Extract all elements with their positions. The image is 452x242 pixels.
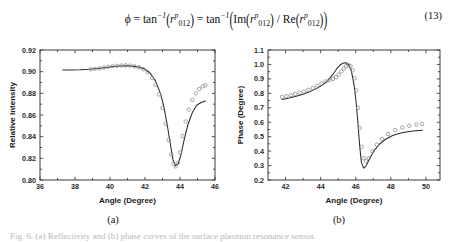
a-ytick-label: 0.80: [22, 176, 36, 185]
im-label: Im: [233, 13, 246, 25]
b-series-experiment-marker: [337, 73, 341, 77]
a-series-experiment-marker: [187, 108, 191, 112]
close-paren-im: ): [270, 4, 274, 33]
open-paren-outer: (: [229, 0, 233, 37]
b-ytick-label: 0.5: [254, 132, 264, 141]
a-xtick-label: 44: [176, 182, 184, 191]
b-ytick-label: 0.4: [254, 147, 264, 156]
a-ytick-label: 0.86: [22, 111, 36, 120]
tan-exponent-1: −1: [157, 11, 166, 20]
a-series-experiment-marker: [191, 98, 195, 102]
b-series-experiment-marker: [393, 128, 397, 132]
b-series-experiment-marker: [364, 159, 368, 163]
r-subscript-1: 012: [178, 19, 190, 28]
b-ytick-label: 0.8: [254, 89, 264, 98]
a-xtick-label: 38: [71, 182, 79, 191]
chart-b-data: [280, 63, 424, 168]
b-series-experiment-marker: [320, 82, 324, 86]
b-ytick-label: 1.0: [254, 60, 264, 69]
a-series-experiment-marker: [194, 92, 198, 96]
a-series-theory-line: [63, 66, 206, 166]
b-series-experiment-marker: [380, 137, 384, 141]
chart-a-x-axis-title: Angle (Degree): [99, 196, 156, 205]
b-ytick-label: 0.3: [254, 161, 264, 170]
b-series-experiment-marker: [298, 91, 302, 95]
a-series-experiment-marker: [184, 120, 188, 124]
a-series-experiment-marker: [198, 87, 202, 91]
tan-label-2: tan: [206, 13, 220, 25]
b-series-experiment-marker: [360, 145, 364, 149]
open-paren-re: (: [296, 4, 300, 33]
b-ytick-label: 0.9: [254, 74, 264, 83]
a-xtick-label: 40: [106, 182, 114, 191]
b-series-experiment-marker: [386, 132, 390, 136]
close-paren-1: ): [190, 4, 194, 33]
b-series-experiment-marker: [375, 143, 379, 147]
b-series-theory-line: [282, 63, 422, 168]
chart-b-y-axis-title: Phase (Degree): [236, 86, 245, 145]
b-ytick-label: 0.7: [254, 103, 264, 112]
b-xtick-label: 44: [317, 182, 325, 191]
chart-b-svg: 42444648500.20.30.40.50.60.70.80.91.01.1…: [226, 38, 452, 216]
b-series-experiment-marker: [420, 122, 424, 126]
b-ytick-label: 1.1: [254, 46, 264, 55]
b-ytick-label: 0.2: [254, 176, 264, 185]
chart-b-tick-labels: 42444648500.20.30.40.50.60.70.80.91.01.1: [254, 46, 430, 191]
b-xtick-label: 48: [387, 182, 395, 191]
subcaption-b: (b): [226, 214, 452, 225]
b-xtick-label: 42: [282, 182, 290, 191]
b-series-experiment-marker: [280, 95, 284, 99]
open-paren-1: (: [166, 4, 170, 33]
r-subscript-2: 012: [258, 19, 270, 28]
r-subscript-3: 012: [308, 19, 320, 28]
a-ytick-label: 0.84: [22, 132, 36, 141]
a-xtick-label: 42: [141, 182, 149, 191]
equation-13: ϕ = tan−1(rp012) = tan−1(Im(rp012) / Re(…: [0, 6, 452, 34]
a-series-experiment-marker: [181, 134, 185, 138]
b-series-experiment-marker: [307, 88, 311, 92]
b-xtick-label: 50: [422, 182, 430, 191]
tan-label-1: tan: [143, 13, 157, 25]
b-series-experiment-marker: [315, 84, 319, 88]
b-series-experiment-marker: [401, 126, 405, 130]
b-series-experiment-marker: [289, 93, 293, 97]
tan-exponent-2: −1: [220, 11, 229, 20]
b-series-experiment-marker: [415, 123, 419, 127]
b-series-experiment-marker: [285, 94, 289, 98]
a-xtick-label: 36: [36, 182, 44, 191]
chart-panel-b: 42444648500.20.30.40.50.60.70.80.91.01.1…: [226, 38, 452, 216]
a-ytick-label: 0.90: [22, 67, 36, 76]
chart-a-svg: 3638404244460.800.820.840.860.880.900.92…: [0, 38, 226, 216]
a-ytick-label: 0.82: [22, 154, 36, 163]
close-paren-outer: ): [323, 0, 327, 37]
b-series-experiment-marker: [311, 86, 315, 90]
equation-row: ϕ = tan−1(rp012) = tan−1(Im(rp012) / Re(…: [0, 6, 452, 32]
open-paren-im: (: [246, 4, 250, 33]
chart-panel-a: 3638404244460.800.820.840.860.880.900.92…: [0, 38, 226, 216]
b-series-experiment-marker: [293, 92, 297, 96]
figure-caption: Fig. 6. (a) Reflectivity and (b) phase c…: [10, 231, 442, 242]
chart-a-data: [63, 64, 207, 169]
chart-a-y-axis-title: Relative Intensity: [8, 82, 17, 148]
b-series-experiment-marker: [408, 124, 412, 128]
equation-number: (13): [425, 6, 443, 26]
a-ytick-label: 0.92: [22, 46, 36, 55]
a-xtick-label: 46: [211, 182, 219, 191]
subcaption-a: (a): [0, 214, 226, 225]
a-ytick-label: 0.88: [22, 89, 36, 98]
chart-b-x-axis-title: Angle (Degree): [326, 196, 383, 205]
b-xtick-label: 46: [352, 182, 360, 191]
re-label: Re: [283, 13, 296, 25]
b-series-experiment-marker: [353, 76, 357, 80]
b-series-experiment-marker: [362, 156, 366, 160]
b-series-experiment-marker: [302, 90, 306, 94]
b-ytick-label: 0.6: [254, 118, 264, 127]
